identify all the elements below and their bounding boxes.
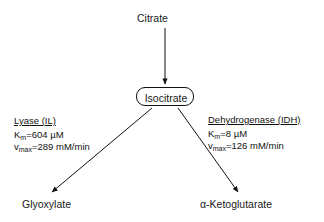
arrow-layer: [0, 0, 324, 222]
enzyme-name-dehydrogenase: Dehydrogenase (IDH): [208, 114, 300, 127]
km-subscript-lyase: m: [20, 134, 26, 141]
node-isocitrate: Isocitrate: [136, 87, 194, 106]
node-label-glyoxylate: Glyoxylate: [22, 198, 71, 210]
km-line-lyase: Km=604 µM: [14, 129, 90, 142]
node-label-ketoglutarate: α-Ketoglutarate: [200, 198, 272, 210]
vmax-subscript-lyase: max: [19, 146, 32, 153]
km-line-dehydrogenase: Km=8 µM: [208, 128, 300, 141]
km-value-lyase: =604 µM: [26, 129, 63, 140]
kinetics-block-dehydrogenase: Dehydrogenase (IDH) Km=8 µM vmax=126 mM/…: [208, 114, 300, 153]
vmax-value-lyase: =289 mM/min: [32, 141, 90, 152]
vmax-line-dehydrogenase: vmax=126 mM/min: [208, 140, 300, 153]
kinetics-block-lyase: Lyase (IL) Km=604 µM vmax=289 mM/min: [14, 115, 90, 154]
vmax-subscript-dehydrogenase: max: [213, 145, 226, 152]
km-subscript-dehydrogenase: m: [214, 133, 220, 140]
enzyme-name-lyase: Lyase (IL): [14, 115, 90, 128]
vmax-value-dehydrogenase: =126 mM/min: [226, 140, 284, 151]
node-label-isocitrate: Isocitrate: [137, 88, 195, 107]
pathway-diagram: Citrate Isocitrate Lyase (IL) Km=604 µM …: [0, 0, 324, 222]
vmax-line-lyase: vmax=289 mM/min: [14, 141, 90, 154]
km-value-dehydrogenase: =8 µM: [220, 128, 247, 139]
node-label-citrate: Citrate: [137, 12, 168, 24]
